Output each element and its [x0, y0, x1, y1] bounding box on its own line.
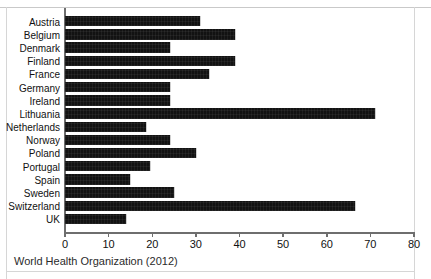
figure-caption: World Health Organization (2012) [14, 255, 178, 268]
bar-row: Poland [0, 147, 431, 160]
x-tick-label: 0 [62, 238, 68, 250]
bar-row: Norway [0, 134, 431, 147]
bar-row: Portugal [0, 160, 431, 173]
bar-row: Austria [0, 15, 431, 28]
bar [65, 95, 171, 105]
x-tick [64, 232, 66, 237]
category-label: UK [46, 214, 60, 225]
category-label: Belgium [24, 29, 60, 40]
bar-row: Switzerland [0, 200, 431, 213]
category-label: Ireland [29, 95, 60, 106]
bar [65, 187, 175, 197]
category-label: Lithuania [19, 108, 60, 119]
bar-row: Spain [0, 173, 431, 186]
category-label: Switzerland [8, 201, 60, 212]
category-label: Poland [29, 148, 60, 159]
x-tick [152, 232, 154, 237]
bar-rows: AustriaBelgiumDenmarkFinlandFranceGerman… [0, 15, 431, 226]
category-label: Portugal [23, 161, 60, 172]
cropped-top-text-strip [0, 0, 431, 8]
x-tick-label: 30 [190, 238, 202, 250]
category-label: Denmark [19, 42, 60, 53]
x-tick-label: 60 [321, 238, 333, 250]
x-tick [239, 232, 241, 237]
category-label: Norway [26, 135, 60, 146]
bar-row: Sweden [0, 186, 431, 199]
bar [65, 214, 127, 224]
bar-row: Belgium [0, 28, 431, 41]
x-tick-label: 70 [364, 238, 376, 250]
bar-row: Netherlands [0, 121, 431, 134]
bar [65, 201, 356, 211]
category-label: Finland [27, 56, 60, 67]
x-tick [195, 232, 197, 237]
bar-row: Denmark [0, 41, 431, 54]
category-label: France [29, 69, 60, 80]
x-tick [108, 232, 110, 237]
x-tick-label: 10 [103, 238, 115, 250]
bar [65, 42, 171, 52]
bar [65, 135, 171, 145]
figure-container: AustriaBelgiumDenmarkFinlandFranceGerman… [0, 0, 431, 279]
x-tick [326, 232, 328, 237]
category-label: Spain [34, 174, 60, 185]
page-edge-bottom [6, 271, 415, 272]
x-tick [370, 232, 372, 237]
bar [65, 16, 201, 26]
bar [65, 69, 210, 79]
bar [65, 29, 236, 39]
bar [65, 108, 376, 118]
category-label: Austria [29, 16, 60, 27]
bar-row: France [0, 68, 431, 81]
bar-row: Finland [0, 55, 431, 68]
category-label: Netherlands [6, 122, 60, 133]
x-tick-label: 80 [408, 238, 420, 250]
category-label: Germany [19, 82, 60, 93]
bar [65, 122, 147, 132]
bar-row: Lithuania [0, 107, 431, 120]
x-tick-label: 40 [233, 238, 245, 250]
x-axis: 01020304050607080 [0, 232, 431, 256]
bar [65, 56, 236, 66]
bar-row: UK [0, 213, 431, 226]
bar [65, 161, 151, 171]
x-tick [413, 232, 415, 237]
bar-row: Germany [0, 81, 431, 94]
bar [65, 174, 131, 184]
x-tick [282, 232, 284, 237]
x-tick-label: 20 [146, 238, 158, 250]
bar [65, 82, 171, 92]
bar-row: Ireland [0, 94, 431, 107]
plot-area: AustriaBelgiumDenmarkFinlandFranceGerman… [0, 8, 431, 232]
bar [65, 148, 197, 158]
x-tick-label: 50 [277, 238, 289, 250]
category-label: Sweden [24, 188, 60, 199]
